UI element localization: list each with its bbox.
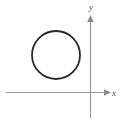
- x-axis-label: x: [111, 88, 116, 98]
- circle-shape: [32, 31, 80, 79]
- x-axis-arrowhead: [104, 89, 111, 96]
- figure-container: x y: [0, 0, 130, 122]
- coordinate-plane-diagram: x y: [0, 0, 130, 122]
- y-axis-label: y: [88, 2, 93, 12]
- y-axis-arrowhead: [87, 15, 94, 22]
